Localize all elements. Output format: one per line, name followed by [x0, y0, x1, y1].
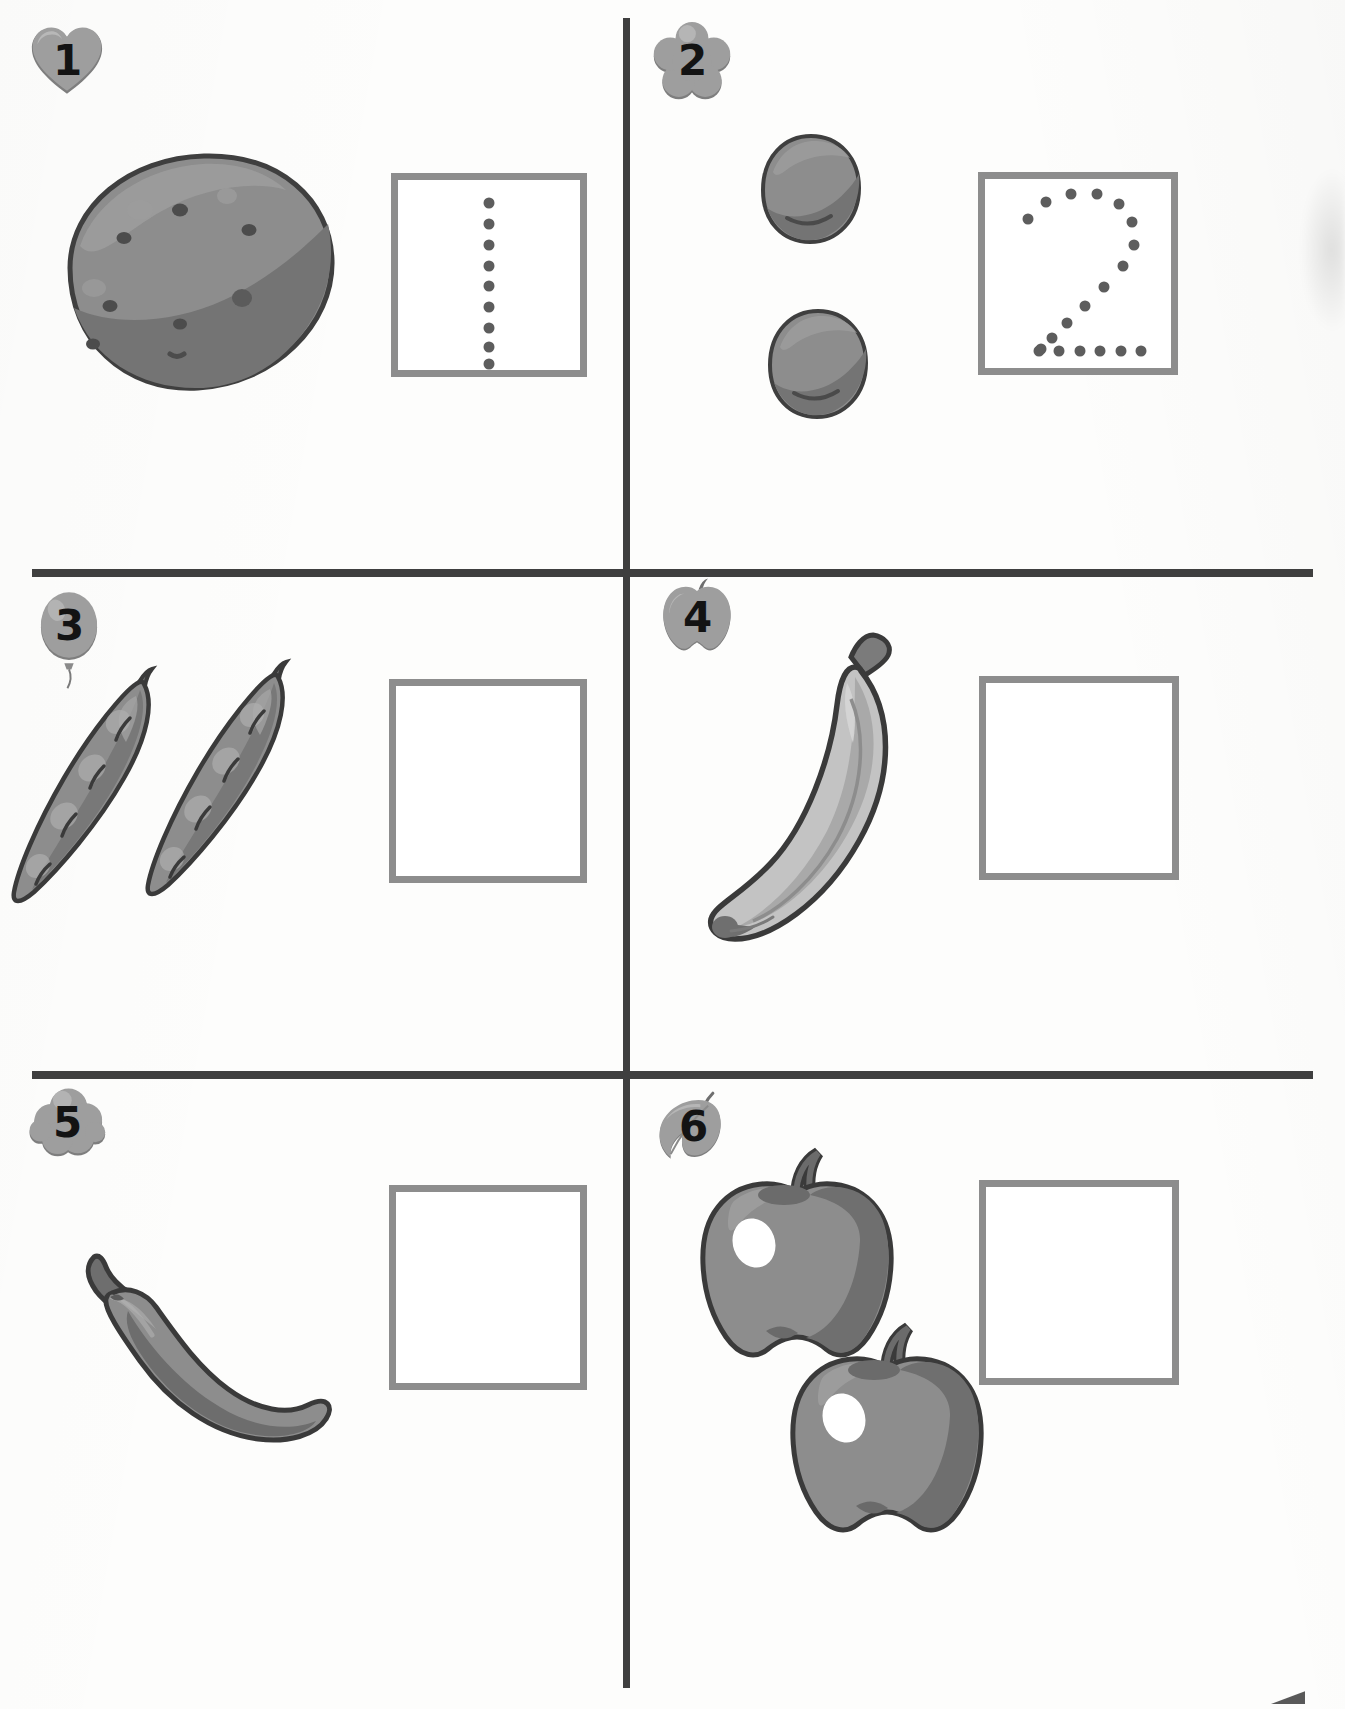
trace-dot	[1046, 332, 1057, 343]
trace-dot	[1117, 260, 1128, 271]
trace-dot	[1091, 189, 1102, 200]
cell-2: 2	[630, 0, 1345, 569]
trace-dot	[484, 359, 495, 370]
trace-dot	[484, 260, 495, 271]
trace-dot	[1033, 345, 1044, 356]
answer-box-2[interactable]	[978, 172, 1178, 375]
trace-dot	[1041, 196, 1052, 207]
cell-5: 5	[0, 1071, 623, 1709]
number-badge-flower: 2	[653, 22, 731, 100]
trace-dot	[1099, 281, 1110, 292]
number-badge-cloud: 5	[28, 1083, 106, 1161]
answer-box-1[interactable]	[391, 173, 587, 377]
trace-dot	[484, 218, 495, 229]
produce-chili-pepper	[72, 1249, 352, 1449]
answer-box-3[interactable]	[389, 679, 587, 883]
cell-4: 4	[630, 569, 1345, 1071]
trace-guide-5	[396, 1192, 580, 1383]
trace-guide-3	[396, 686, 580, 876]
trace-dot	[1080, 300, 1091, 311]
trace-guide-6	[986, 1187, 1172, 1378]
trace-dot	[1061, 317, 1072, 328]
cell-6: 6	[630, 1071, 1345, 1709]
produce-pea-pod-2	[142, 653, 302, 913]
produce-apple-2	[782, 1326, 992, 1556]
trace-dot	[1022, 213, 1033, 224]
produce-plum-2	[762, 305, 872, 425]
trace-dot	[484, 239, 495, 250]
trace-dot	[1074, 345, 1085, 356]
produce-potato	[52, 148, 342, 398]
grid-divider-column	[623, 18, 630, 1688]
trace-dot	[484, 302, 495, 313]
trace-dot	[1128, 240, 1139, 251]
number-badge-heart: 1	[28, 22, 106, 100]
answer-box-4[interactable]	[979, 676, 1179, 880]
trace-guide-4	[986, 683, 1172, 873]
produce-plum-1	[755, 130, 865, 250]
answer-box-5[interactable]	[389, 1185, 587, 1390]
badge-number-text: 1	[28, 22, 106, 100]
produce-banana	[695, 627, 935, 957]
trace-guide-2	[985, 179, 1171, 368]
cell-3: 3	[0, 569, 623, 1071]
trace-dot	[484, 197, 495, 208]
trace-dot	[1095, 345, 1106, 356]
trace-dot	[484, 281, 495, 292]
cell-1: 1	[0, 0, 623, 569]
trace-dot	[1054, 345, 1065, 356]
trace-dot	[1065, 189, 1076, 200]
badge-number-text: 2	[653, 22, 731, 100]
trace-dot	[1126, 217, 1137, 228]
trace-dot	[1136, 345, 1147, 356]
trace-guide-1	[398, 180, 580, 370]
answer-box-6[interactable]	[979, 1180, 1179, 1385]
trace-dot	[484, 342, 495, 353]
trace-dot	[1115, 345, 1126, 356]
badge-number-text: 5	[28, 1083, 106, 1161]
trace-dot	[484, 323, 495, 334]
trace-dot	[1113, 198, 1124, 209]
worksheet-page: 1	[0, 0, 1345, 1709]
